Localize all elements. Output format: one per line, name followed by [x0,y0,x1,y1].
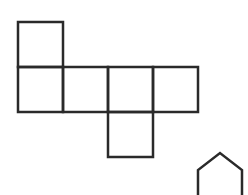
net-square-top [18,22,63,67]
net-square-mid-1 [18,67,63,112]
net-square-mid-3 [108,67,153,112]
net-square-mid-4 [153,67,198,112]
net-square-bottom [108,112,153,157]
cube-net-diagram [0,0,248,195]
partial-pentagon-shape [198,153,242,195]
cube-net [18,22,198,157]
net-square-mid-2 [63,67,108,112]
